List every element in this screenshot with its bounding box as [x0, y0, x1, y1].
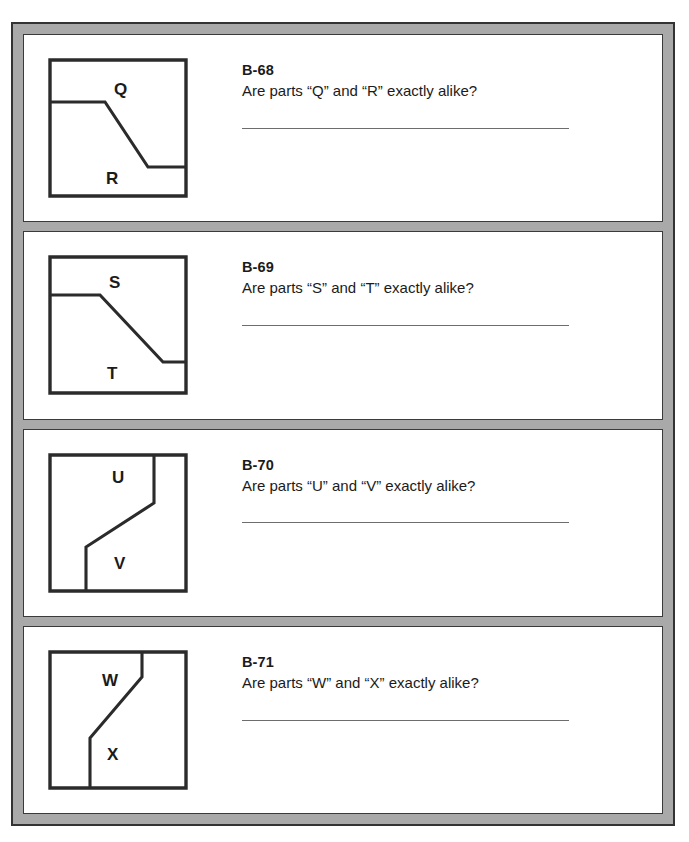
figure-cut-line [50, 295, 186, 362]
figure-cell: Q R [44, 45, 204, 211]
figure-cell: U V [44, 440, 204, 606]
exercise-question: Are parts “S” and “T” exactly alike? [242, 277, 640, 299]
part-label-top: S [109, 273, 120, 292]
part-label-bottom: R [106, 169, 118, 188]
part-label-bottom: T [107, 364, 118, 383]
part-label-bottom: V [114, 554, 126, 573]
exercise-number: B-69 [242, 258, 640, 276]
question-block: B-69 Are parts “S” and “T” exactly alike… [204, 242, 662, 326]
worksheet-frame: Q R B-68 Are parts “Q” and “R” exactly a… [11, 22, 675, 826]
exercise-panel: Q R B-68 Are parts “Q” and “R” exactly a… [23, 34, 663, 222]
exercise-question: Are parts “U” and “V” exactly alike? [242, 475, 640, 497]
part-label-bottom: X [107, 745, 119, 764]
part-label-top: Q [114, 80, 127, 99]
exercise-panel-list: Q R B-68 Are parts “Q” and “R” exactly a… [23, 34, 663, 814]
part-figure: W X [44, 646, 192, 794]
answer-line[interactable] [242, 128, 569, 129]
exercise-number: B-68 [242, 61, 640, 79]
question-block: B-68 Are parts “Q” and “R” exactly alike… [204, 45, 662, 129]
question-block: B-71 Are parts “W” and “X” exactly alike… [204, 637, 662, 721]
part-figure-svg: S T [44, 251, 192, 399]
figure-cell: W X [44, 637, 204, 803]
exercise-question: Are parts “W” and “X” exactly alike? [242, 672, 640, 694]
figure-cell: S T [44, 242, 204, 408]
answer-line[interactable] [242, 522, 569, 523]
exercise-panel: S T B-69 Are parts “S” and “T” exactly a… [23, 231, 663, 419]
exercise-panel: W X B-71 Are parts “W” and “X” exactly a… [23, 626, 663, 814]
figure-cut-line [50, 102, 186, 167]
part-figure: U V [44, 449, 192, 597]
exercise-question: Are parts “Q” and “R” exactly alike? [242, 80, 640, 102]
part-figure: S T [44, 251, 192, 399]
exercise-number: B-70 [242, 456, 640, 474]
part-figure-svg: U V [44, 449, 192, 597]
part-label-top: W [102, 671, 119, 690]
question-block: B-70 Are parts “U” and “V” exactly alike… [204, 440, 662, 524]
part-figure-svg: Q R [44, 54, 192, 202]
exercise-panel: U V B-70 Are parts “U” and “V” exactly a… [23, 429, 663, 617]
part-figure-svg: W X [44, 646, 192, 794]
answer-line[interactable] [242, 720, 569, 721]
exercise-number: B-71 [242, 653, 640, 671]
part-figure: Q R [44, 54, 192, 202]
part-label-top: U [112, 468, 124, 487]
answer-line[interactable] [242, 325, 569, 326]
